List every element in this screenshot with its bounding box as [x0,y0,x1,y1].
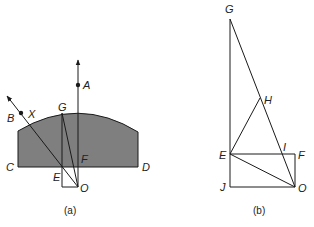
label-o: O [80,182,89,194]
label-i: I [283,141,286,153]
panel-a: A B X G C D E F O (a) [6,60,150,216]
figure: A B X G C D E F O (a) G H E I F J O (b) [0,0,314,227]
label-g: G [225,3,234,15]
panel-b [230,19,295,187]
line-eh [230,98,260,154]
label-d: D [142,161,150,173]
label-e: E [53,171,61,183]
line-go [230,19,295,187]
point-b [19,111,23,115]
caption-b: (b) [253,205,265,216]
line-eo [230,154,295,187]
label-b: B [7,112,14,124]
label-g: G [58,101,67,113]
label-e: E [219,149,227,161]
label-x: X [27,108,36,120]
label-h: H [264,94,272,106]
label-c: C [6,161,14,173]
label-j: J [219,181,226,193]
label-a: A [82,79,90,91]
point-a [76,83,80,87]
label-f: F [298,149,306,161]
label-o: O [298,182,307,194]
caption-a: (a) [64,205,76,216]
